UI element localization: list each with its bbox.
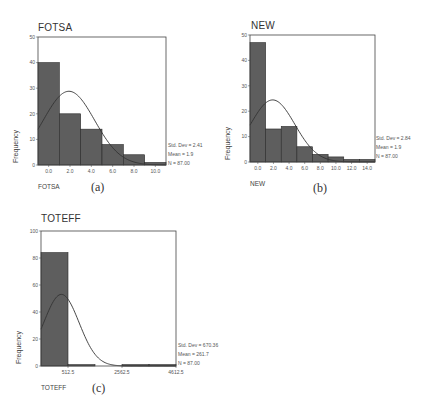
std-dev-text: Std. Dev = 670.36 xyxy=(178,341,218,350)
panel-sublabel: (c) xyxy=(92,381,105,396)
x-tick-label: 512.5 xyxy=(62,369,75,375)
x-tick-label: 4612.5 xyxy=(168,369,184,375)
y-tick-label: 80 xyxy=(32,255,38,261)
y-tick-label: 60 xyxy=(32,282,38,288)
n-text: N = 87.00 xyxy=(178,359,218,368)
x-variable-label: TOTEFF xyxy=(41,384,66,391)
y-tick-label: 40 xyxy=(32,309,38,315)
histogram-bar xyxy=(41,253,68,366)
y-tick-label: 100 xyxy=(30,228,39,234)
y-axis-label: Frequency xyxy=(15,330,23,364)
x-tick-label: 2562.5 xyxy=(114,369,130,375)
y-tick-label: 0 xyxy=(35,363,38,369)
y-tick-label: 20 xyxy=(32,336,38,342)
stats-box: Std. Dev = 670.36 Mean = 261.7 N = 87.00 xyxy=(178,341,218,368)
mean-text: Mean = 261.7 xyxy=(178,350,218,359)
